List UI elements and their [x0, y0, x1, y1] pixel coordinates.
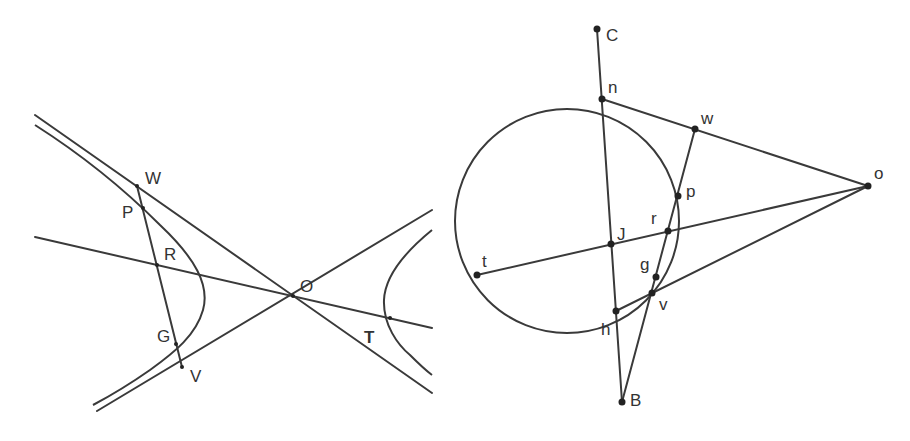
label-V: V	[190, 367, 202, 386]
point-t	[474, 272, 481, 279]
hyperbola-left-branch	[35, 125, 205, 405]
line-ROT	[35, 237, 432, 328]
label-n: n	[608, 78, 617, 97]
label-G: G	[157, 327, 170, 346]
label-T: T	[364, 328, 375, 347]
label-R: R	[164, 245, 176, 264]
label-t: t	[482, 252, 487, 271]
point-O	[291, 294, 295, 298]
point-T	[388, 316, 392, 320]
label-v: v	[659, 295, 668, 314]
point-v	[649, 290, 656, 297]
point-r	[665, 228, 672, 235]
point-B	[619, 399, 626, 406]
point-V	[180, 365, 184, 369]
point-R	[155, 263, 159, 267]
label-h: h	[601, 320, 610, 339]
point-n	[599, 96, 606, 103]
point-o	[865, 183, 872, 190]
point-p	[675, 193, 682, 200]
tangent-nwo	[602, 99, 868, 186]
diagram-canvas: W P R G V O T C n w	[0, 0, 910, 441]
point-g	[653, 274, 660, 281]
hyperbola-right-branch	[384, 230, 432, 375]
label-P: P	[122, 203, 133, 222]
circle	[455, 109, 679, 333]
label-J: J	[617, 225, 626, 244]
label-B: B	[630, 391, 641, 410]
hyperbola-figure: W P R G V O T	[35, 115, 432, 411]
label-W: W	[145, 169, 161, 188]
circle-figure: C n w o p r J t g v h B	[455, 26, 883, 411]
label-O: O	[300, 277, 313, 296]
point-C	[594, 26, 601, 33]
asymptote-line-1	[35, 115, 432, 393]
line-wB	[622, 129, 695, 402]
label-o: o	[874, 164, 883, 183]
label-g: g	[640, 255, 649, 274]
label-w: w	[700, 109, 714, 128]
point-w	[692, 126, 699, 133]
point-J	[608, 241, 615, 248]
label-C: C	[606, 26, 618, 45]
label-r: r	[651, 209, 657, 228]
point-h	[613, 308, 620, 315]
point-G	[174, 342, 178, 346]
label-p: p	[686, 182, 695, 201]
asymptote-line-2	[97, 210, 432, 411]
line-tJro	[477, 186, 868, 275]
point-W	[135, 184, 139, 188]
point-P	[141, 206, 145, 210]
